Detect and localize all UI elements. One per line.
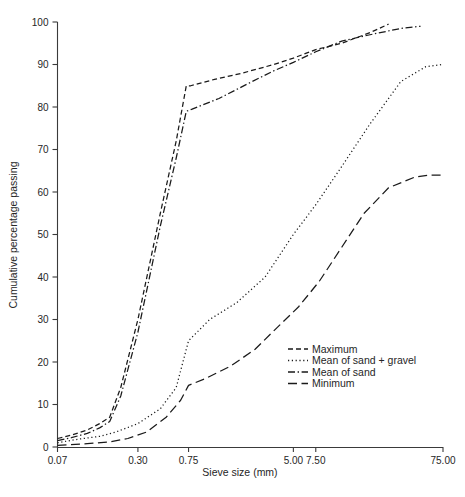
legend-label-mean-of-sand: Mean of sand	[312, 366, 376, 378]
chart-container: 0102030405060708090100 0.070.300.755.007…	[0, 0, 465, 497]
x-tick-label: 5.00	[284, 455, 304, 466]
x-axis-title: Sieve size (mm)	[202, 466, 277, 478]
series-line-mean-of-sand-gravel	[58, 65, 444, 443]
y-tick-label: 100	[32, 17, 49, 28]
y-tick-label: 10	[37, 399, 49, 410]
x-tick-label: 0.07	[48, 455, 68, 466]
x-tick-label: 0.75	[179, 455, 199, 466]
x-axis-ticks: 0.070.300.755.007.5075.00	[48, 447, 456, 466]
axes-group	[58, 22, 444, 448]
legend-label-mean-of-sand-gravel: Mean of sand + gravel	[312, 354, 416, 366]
x-tick-label: 7.50	[306, 455, 326, 466]
y-tick-label: 90	[37, 59, 49, 70]
x-tick-label: 0.30	[128, 455, 148, 466]
y-tick-label: 20	[37, 357, 49, 368]
series-line-minimum	[58, 175, 444, 445]
x-tick-label: 75.00	[430, 455, 455, 466]
chart-legend: MaximumMean of sand + gravelMean of sand…	[288, 343, 416, 390]
y-tick-label: 50	[37, 229, 49, 240]
gradation-curve-plot: 0102030405060708090100 0.070.300.755.007…	[0, 0, 465, 497]
y-tick-label: 30	[37, 314, 49, 325]
y-tick-label: 0	[43, 442, 49, 453]
data-series-group	[58, 24, 444, 445]
y-tick-label: 70	[37, 144, 49, 155]
legend-label-maximum: Maximum	[312, 343, 358, 355]
y-tick-label: 60	[37, 187, 49, 198]
y-axis-ticks: 0102030405060708090100	[32, 17, 58, 453]
y-tick-label: 80	[37, 102, 49, 113]
y-tick-label: 40	[37, 272, 49, 283]
legend-label-minimum: Minimum	[312, 377, 355, 389]
series-line-mean-of-sand	[58, 26, 421, 440]
y-axis-title: Cumulative percentage passing	[7, 161, 19, 308]
